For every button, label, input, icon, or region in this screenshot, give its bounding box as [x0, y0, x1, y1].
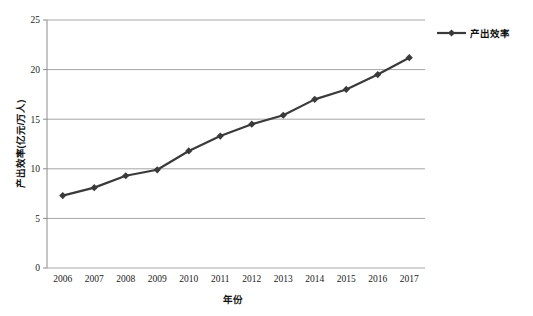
y-tick-label: 20: [31, 65, 41, 75]
x-tick-label: 2014: [305, 274, 324, 284]
chart-container: 0510152025 20062007200820092010201120122…: [0, 0, 533, 316]
x-tick-label: 2009: [148, 274, 167, 284]
y-axis-title: 产出效率(亿元/万人): [15, 100, 26, 189]
y-tick-label: 10: [31, 164, 41, 174]
x-tick-label: 2006: [53, 274, 72, 284]
y-tick-label: 25: [31, 15, 41, 25]
y-tick-label: 5: [35, 214, 40, 224]
x-tick-label: 2012: [242, 274, 261, 284]
x-tick-label: 2017: [400, 274, 419, 284]
x-axis-title: 年份: [223, 294, 243, 305]
chart-background: [0, 0, 533, 316]
x-tick-label: 2010: [179, 274, 198, 284]
legend-label: 产出效率: [470, 28, 510, 39]
y-tick-label: 15: [31, 115, 41, 125]
x-tick-label: 2016: [368, 274, 387, 284]
line-chart: 0510152025 20062007200820092010201120122…: [0, 0, 533, 316]
x-tick-label: 2015: [337, 274, 356, 284]
x-tick-label: 2013: [274, 274, 293, 284]
x-tick-label: 2007: [85, 274, 104, 284]
x-tick-label: 2011: [211, 274, 230, 284]
y-tick-label: 0: [35, 263, 40, 273]
x-tick-label: 2008: [116, 274, 135, 284]
